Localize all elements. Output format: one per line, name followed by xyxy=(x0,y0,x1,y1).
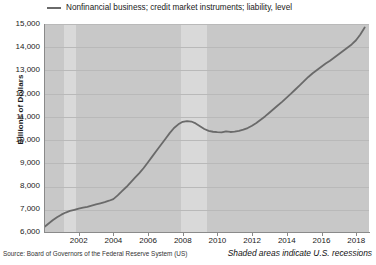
y-tick-label: 12,000 xyxy=(0,90,40,98)
y-tick-label: 15,000 xyxy=(0,20,40,28)
source-caption: Source: Board of Governors of the Federa… xyxy=(3,250,187,257)
y-tick-label: 11,000 xyxy=(0,113,40,121)
legend-label: Nonfinancial business; credit market ins… xyxy=(66,3,292,13)
y-tick-label: 7,000 xyxy=(0,205,40,213)
legend-line-swatch xyxy=(47,7,61,9)
series-svg xyxy=(44,24,369,233)
fred-line-chart: Nonfinancial business; credit market ins… xyxy=(0,0,376,265)
data-series-line xyxy=(44,27,365,227)
y-axis-line xyxy=(44,24,45,233)
y-tick-label: 9,000 xyxy=(0,159,40,167)
plot-area xyxy=(44,24,369,233)
y-axis-tick-labels: 15,000 14,000 13,000 12,000 11,000 10,00… xyxy=(0,0,40,265)
recession-note: Shaded areas indicate U.S. recessions xyxy=(228,248,372,258)
chart-legend: Nonfinancial business; credit market ins… xyxy=(47,1,292,14)
y-tick-label: 10,000 xyxy=(0,136,40,144)
y-tick-label: 8,000 xyxy=(0,182,40,190)
y-tick-label: 6,000 xyxy=(0,228,40,236)
x-tick-label: 2018 xyxy=(336,236,376,245)
y-tick-label: 14,000 xyxy=(0,43,40,51)
y-tick-label: 13,000 xyxy=(0,66,40,74)
